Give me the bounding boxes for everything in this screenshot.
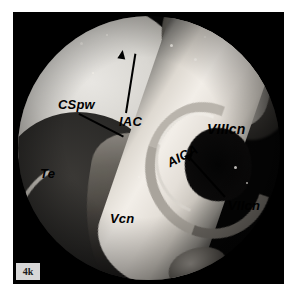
- figure-panel-tag-text: 4k: [23, 266, 34, 277]
- endoscopic-image-plate: CSpw IAC Te Vcn AICA VIIcn VIIIcn 4k: [13, 12, 284, 284]
- specular-speck: [138, 176, 140, 178]
- annotation-label-vcn: Vcn: [110, 212, 134, 225]
- arrow-head-iac: [117, 49, 126, 59]
- annotation-label-iac: IAC: [119, 115, 142, 128]
- annotation-label-viicn: VIIcn: [228, 199, 260, 212]
- annotation-label-viiicn: VIIIcn: [207, 122, 246, 136]
- annotation-label-te: Te: [40, 167, 55, 180]
- specular-speck: [234, 166, 237, 169]
- figure-panel-tag: 4k: [16, 263, 40, 280]
- specular-speck: [204, 36, 206, 38]
- specular-speck: [80, 42, 83, 45]
- endoscopic-field-of-view: [18, 16, 280, 280]
- specular-speck: [92, 72, 94, 74]
- specular-speck: [106, 34, 108, 36]
- specular-speck: [194, 58, 197, 61]
- specular-speck: [246, 182, 248, 184]
- figure-container: CSpw IAC Te Vcn AICA VIIcn VIIIcn 4k: [0, 0, 293, 297]
- specular-speck: [170, 44, 173, 47]
- annotation-label-cspw: CSpw: [58, 98, 95, 111]
